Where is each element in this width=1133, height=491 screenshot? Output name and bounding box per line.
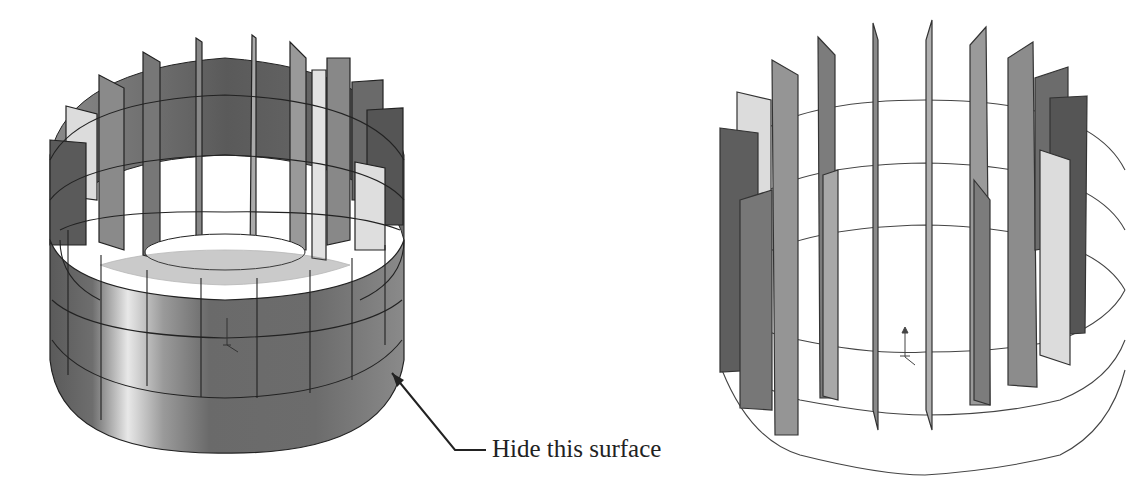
shaded-cylinder-drawing	[0, 0, 440, 491]
callout-leader	[380, 360, 710, 491]
origin-triad-icon	[900, 327, 915, 365]
left-view-shaded-cylinder	[0, 0, 440, 491]
fins-wireframe-drawing	[700, 0, 1133, 491]
callout-label: Hide this surface	[492, 436, 661, 461]
right-view-surface-hidden	[700, 0, 1133, 491]
fins	[720, 20, 1087, 435]
